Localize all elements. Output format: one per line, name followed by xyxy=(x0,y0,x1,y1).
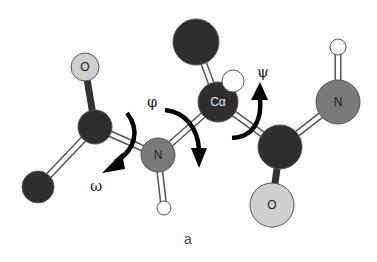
atom-label: O xyxy=(80,60,89,74)
atom-c0 xyxy=(22,171,54,203)
omega-arrowhead-icon xyxy=(102,153,125,173)
atom-n2: N xyxy=(316,80,360,124)
phi-arrowhead-icon xyxy=(191,148,207,168)
atom-ha xyxy=(222,70,244,92)
atom-h2 xyxy=(330,39,346,55)
atom-c1 xyxy=(78,110,112,144)
atom-n1: N xyxy=(141,138,175,172)
phi-label: φ xyxy=(147,93,158,111)
psi-label: ψ xyxy=(257,63,269,81)
atom-label: N xyxy=(334,95,343,109)
atom-h1 xyxy=(157,201,171,215)
peptide-backbone-diagram: ONCαON φ ψ ω a xyxy=(0,0,377,262)
atom-o2: O xyxy=(250,183,294,227)
atom-cb xyxy=(173,19,219,65)
omega-label: ω xyxy=(90,177,102,195)
molecule-svg: ONCαON xyxy=(0,0,377,262)
atom-label: N xyxy=(154,148,163,162)
atom-c2 xyxy=(258,125,302,169)
atom-o1: O xyxy=(71,53,99,81)
panel-label: a xyxy=(184,231,192,247)
atom-label: O xyxy=(267,198,276,212)
psi-arrowhead-icon xyxy=(251,82,268,100)
atom-label: Cα xyxy=(210,95,226,109)
